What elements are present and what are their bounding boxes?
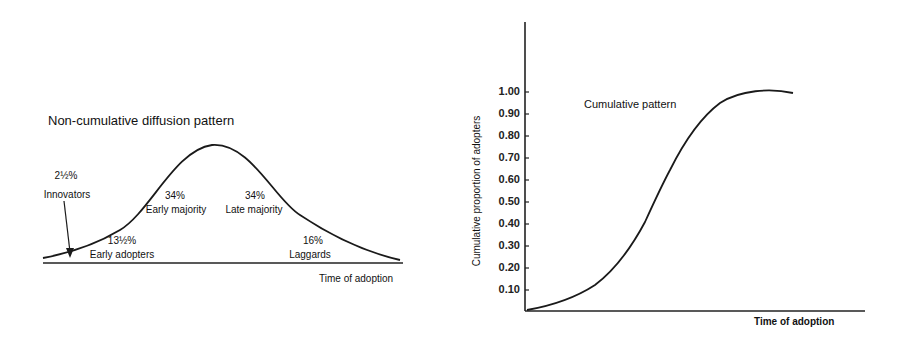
early-adopters-label: Early adopters xyxy=(90,250,154,260)
y-tick-label: 0.60 xyxy=(490,174,520,185)
y-tick-label: 0.10 xyxy=(490,284,520,295)
y-tick-label: 0.20 xyxy=(490,262,520,273)
cumulative-series-label: Cumulative pattern xyxy=(584,99,676,110)
laggards-percent: 16% xyxy=(303,236,323,246)
y-tick-label: 0.40 xyxy=(490,218,520,229)
bell-curve xyxy=(43,145,400,260)
early-majority-label: Early majority xyxy=(146,205,207,215)
y-tick-label: 0.50 xyxy=(490,196,520,207)
laggards-label: Laggards xyxy=(289,250,331,260)
y-tick-label: 0.80 xyxy=(490,130,520,141)
late-majority-percent: 34% xyxy=(245,191,265,201)
y-tick-label: 1.00 xyxy=(490,86,520,97)
innovators-percent: 2½% xyxy=(55,171,78,181)
left-chart-title: Non-cumulative diffusion pattern xyxy=(48,114,234,127)
early-majority-percent: 34% xyxy=(165,191,185,201)
right-x-axis-label: Time of adoption xyxy=(754,317,834,327)
innovators-arrow-line xyxy=(64,201,70,252)
right-y-axis-label: Cumulative proportion of adopters xyxy=(471,116,482,267)
cumulative-curve xyxy=(527,90,793,310)
y-tick-label: 0.70 xyxy=(490,152,520,163)
charts-canvas xyxy=(0,0,903,342)
y-tick-label: 0.90 xyxy=(490,108,520,119)
y-tick-label: 0.30 xyxy=(490,240,520,251)
left-x-axis-label: Time of adoption xyxy=(319,274,393,284)
late-majority-label: Late majority xyxy=(225,205,282,215)
early-adopters-percent: 13½% xyxy=(108,236,136,246)
innovators-label: Innovators xyxy=(44,190,91,200)
